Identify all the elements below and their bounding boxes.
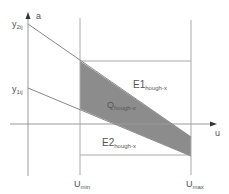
y1-label: y1ij	[12, 85, 23, 95]
umin-label: Umin	[74, 180, 90, 190]
diagram-canvas	[0, 0, 229, 194]
axis-a-label: a	[36, 12, 41, 21]
umax-label: Umax	[186, 180, 204, 190]
e2-label: E2hough-x	[102, 138, 136, 149]
axis-u-label: u	[215, 129, 220, 138]
y2-label: y2ij	[12, 20, 23, 30]
q-label: Qhough-x	[107, 101, 136, 111]
horizontal-axis-arrow-icon	[210, 122, 217, 127]
vertical-axis-arrow-icon	[26, 12, 31, 19]
e1-label: E1hough-x	[133, 80, 167, 91]
